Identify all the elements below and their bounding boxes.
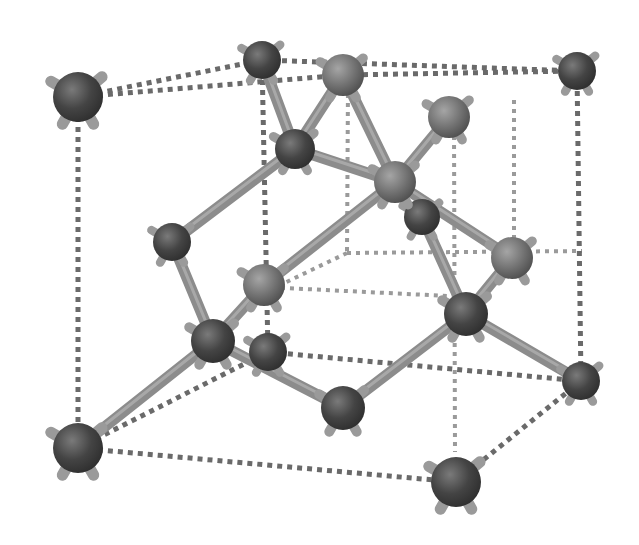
atom-sphere [53, 423, 103, 473]
atom-sphere [275, 129, 315, 169]
atom-sphere [322, 54, 364, 96]
atom [319, 386, 365, 432]
dotted-cell-edge [78, 75, 343, 97]
atom-sphere [374, 161, 416, 203]
atom [151, 223, 191, 263]
atom-sphere [431, 457, 481, 507]
atom-sphere [428, 96, 470, 138]
atom-sphere [444, 292, 488, 336]
atom-sphere [321, 386, 365, 430]
dotted-cell-edge [577, 71, 581, 381]
atom-sphere [243, 264, 285, 306]
atom-sphere [153, 223, 191, 261]
atom-sphere [562, 362, 600, 400]
dotted-back-edge [263, 287, 470, 297]
atom [51, 423, 103, 475]
atom-sphere [53, 72, 103, 122]
dotted-cell-edge [262, 60, 577, 71]
atom [241, 41, 281, 81]
atom-sphere [191, 319, 235, 363]
atom [51, 72, 103, 124]
atom-sphere [558, 52, 596, 90]
dotted-cell-edge [78, 448, 456, 482]
lattice-svg [0, 0, 639, 545]
atom-sphere [491, 237, 533, 279]
dotted-back-edge [347, 251, 582, 253]
atom-sphere [249, 333, 287, 371]
atom [556, 52, 596, 92]
atom [429, 457, 481, 509]
dotted-cell-edge [262, 60, 268, 352]
atom-sphere [243, 41, 281, 79]
crystal-lattice-diagram [0, 0, 639, 545]
